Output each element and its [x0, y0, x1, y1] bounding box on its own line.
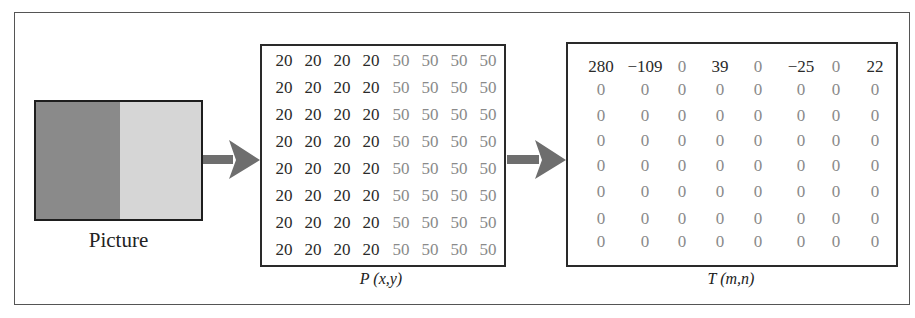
p-matrix-cell: 50 — [480, 159, 497, 179]
p-matrix-cell: 50 — [393, 51, 410, 71]
t-matrix-cell: 0 — [754, 131, 763, 151]
p-matrix-cell: 20 — [334, 51, 351, 71]
p-matrix-cell: 50 — [480, 132, 497, 152]
t-matrix-cell: 0 — [597, 182, 606, 202]
t-matrix-cell: 0 — [678, 131, 687, 151]
p-matrix-cell: 20 — [305, 213, 322, 233]
t-matrix-cell: 0 — [678, 80, 687, 100]
picture-label: Picture — [34, 228, 203, 253]
p-matrix-cell: 20 — [334, 159, 351, 179]
t-matrix-cell: 0 — [678, 232, 687, 252]
p-matrix-cell: 50 — [422, 78, 439, 98]
p-matrix-cell: 50 — [422, 240, 439, 260]
p-matrix-cell: 20 — [334, 105, 351, 125]
p-matrix-cell: 20 — [334, 213, 351, 233]
p-caption-args: (x,y) — [373, 270, 402, 287]
p-matrix-cell: 20 — [363, 132, 380, 152]
t-matrix-cell: 0 — [754, 80, 763, 100]
t-matrix-cell: 0 — [754, 106, 763, 126]
p-matrix-cell: 50 — [422, 159, 439, 179]
t-matrix-cell: 39 — [712, 57, 729, 77]
t-matrix-cell: 0 — [641, 80, 650, 100]
p-matrix-cell: 50 — [451, 186, 468, 206]
t-matrix-cell: 0 — [832, 232, 841, 252]
t-matrix-cell: 0 — [832, 209, 841, 229]
t-matrix-cell: 0 — [716, 80, 725, 100]
t-matrix-cell: 0 — [716, 232, 725, 252]
t-matrix-cell: 0 — [678, 156, 687, 176]
t-matrix-cell: 0 — [871, 131, 880, 151]
t-matrix-cell: 0 — [797, 209, 806, 229]
t-matrix-cell: 0 — [716, 106, 725, 126]
t-matrix-cell: 280 — [588, 57, 614, 77]
t-matrix-caption: T (m,n) — [708, 270, 755, 288]
t-matrix-cell: 0 — [832, 106, 841, 126]
p-matrix-cell: 50 — [480, 213, 497, 233]
p-matrix-cell: 50 — [393, 132, 410, 152]
p-matrix-cell: 20 — [305, 240, 322, 260]
arrow-right-icon — [203, 138, 261, 182]
picture-light-half — [120, 102, 201, 219]
p-matrix-cell: 20 — [305, 51, 322, 71]
p-matrix-cell: 20 — [363, 105, 380, 125]
t-matrix-cell: 0 — [641, 182, 650, 202]
p-matrix-cell: 20 — [276, 159, 293, 179]
p-matrix-cell: 50 — [451, 105, 468, 125]
p-matrix-cell: 20 — [305, 132, 322, 152]
t-matrix-cell: 0 — [871, 209, 880, 229]
t-matrix-cell: 0 — [641, 131, 650, 151]
p-matrix-cell: 20 — [276, 105, 293, 125]
t-matrix-cell: 0 — [716, 131, 725, 151]
p-matrix-cell: 50 — [393, 159, 410, 179]
t-matrix-cell: 0 — [597, 209, 606, 229]
t-matrix-cell: 0 — [871, 106, 880, 126]
p-matrix-cell: 20 — [363, 51, 380, 71]
t-matrix-cell: 0 — [597, 80, 606, 100]
p-matrix-cell: 20 — [363, 186, 380, 206]
p-matrix-cell: 20 — [276, 51, 293, 71]
p-matrix-cell: 20 — [305, 105, 322, 125]
p-matrix-cell: 50 — [480, 51, 497, 71]
p-matrix-cell: 50 — [422, 132, 439, 152]
t-matrix-cell: 0 — [716, 209, 725, 229]
p-matrix-cell: 50 — [480, 78, 497, 98]
t-matrix-cell: 0 — [678, 209, 687, 229]
p-matrix-cell: 50 — [451, 213, 468, 233]
t-matrix-cell: 0 — [797, 232, 806, 252]
p-matrix-cell: 50 — [393, 105, 410, 125]
p-matrix-cell: 50 — [451, 132, 468, 152]
t-matrix-cell: 0 — [797, 131, 806, 151]
t-matrix-cell: 0 — [716, 182, 725, 202]
t-matrix-cell: −109 — [627, 57, 662, 77]
p-matrix-cell: 50 — [451, 240, 468, 260]
t-matrix-cell: 0 — [871, 80, 880, 100]
p-matrix-cell: 20 — [276, 132, 293, 152]
t-caption-func: T — [708, 270, 717, 287]
t-matrix-cell: 0 — [832, 156, 841, 176]
p-matrix-cell: 20 — [334, 240, 351, 260]
p-matrix-cell: 20 — [334, 186, 351, 206]
p-matrix-cell: 20 — [276, 78, 293, 98]
p-matrix-caption: P (x,y) — [360, 270, 402, 288]
p-matrix-cell: 50 — [451, 51, 468, 71]
p-matrix-cell: 50 — [422, 186, 439, 206]
p-matrix-cell: 50 — [480, 240, 497, 260]
t-matrix-cell: 0 — [754, 232, 763, 252]
p-matrix-cell: 50 — [393, 186, 410, 206]
arrow-right-icon — [507, 138, 567, 182]
t-caption-args: (m,n) — [720, 270, 754, 287]
t-matrix-cell: 0 — [641, 156, 650, 176]
t-matrix-cell: 22 — [867, 57, 884, 77]
t-matrix-cell: 0 — [641, 209, 650, 229]
t-matrix-cell: 0 — [871, 182, 880, 202]
p-matrix-cell: 50 — [480, 186, 497, 206]
p-matrix-cell: 50 — [451, 159, 468, 179]
p-matrix-cell: 50 — [422, 51, 439, 71]
t-matrix-cell: 0 — [641, 232, 650, 252]
p-matrix-cell: 20 — [363, 240, 380, 260]
p-matrix-cell: 20 — [363, 159, 380, 179]
p-matrix-cell: 50 — [422, 213, 439, 233]
p-matrix-cell: 20 — [334, 78, 351, 98]
t-matrix-cell: 0 — [754, 156, 763, 176]
p-matrix-cell: 20 — [305, 78, 322, 98]
